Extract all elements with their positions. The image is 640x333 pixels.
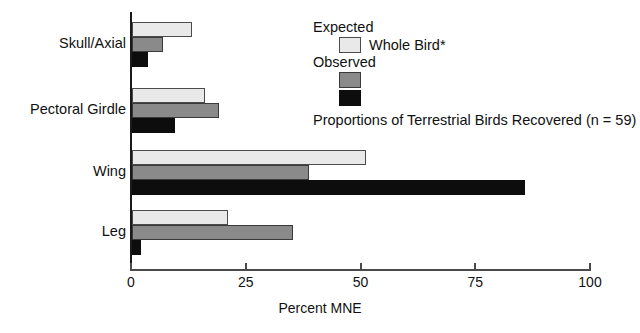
chart-caption: Proportions of Terrestrial Birds Recover… <box>313 112 633 128</box>
bar-leg-observed-gray <box>132 225 293 240</box>
bar-wing-expected <box>132 150 366 165</box>
bar-skull-axial-expected <box>132 22 192 37</box>
legend-swatch-observed-gray-icon <box>339 72 361 88</box>
bar-leg-observed-black <box>132 240 141 255</box>
legend-item-observed-black <box>339 90 633 106</box>
x-tick-0 <box>130 263 132 271</box>
bar-leg-expected <box>132 210 228 225</box>
y-category-label-pectoral-girdle: Pectoral Girdle <box>30 101 126 117</box>
bar-skull-axial-observed-gray <box>132 37 163 52</box>
x-tick-label-25: 25 <box>238 274 254 290</box>
legend-item-observed-gray <box>339 72 633 88</box>
x-tick-label-100: 100 <box>578 274 601 290</box>
legend: Expected Whole Bird* Observed Proportion… <box>313 20 633 128</box>
bar-pectoral-girdle-expected <box>132 88 205 103</box>
bar-chart: 0 25 50 75 100 Percent MNE Skull/Axial P… <box>0 0 640 333</box>
legend-heading-observed: Observed <box>313 55 633 70</box>
x-tick-100 <box>589 263 591 271</box>
bar-pectoral-girdle-observed-black <box>132 118 175 133</box>
legend-swatch-observed-black-icon <box>339 90 361 106</box>
bar-wing-observed-gray <box>132 165 309 180</box>
bar-skull-axial-observed-black <box>132 52 148 67</box>
legend-swatch-expected-icon <box>339 37 361 53</box>
x-tick-75 <box>474 263 476 271</box>
x-tick-label-0: 0 <box>127 274 135 290</box>
bar-pectoral-girdle-observed-gray <box>132 103 219 118</box>
bar-wing-observed-black <box>132 180 525 195</box>
x-tick-50 <box>360 263 362 271</box>
legend-item-whole-bird: Whole Bird* <box>339 37 633 53</box>
legend-label-whole-bird: Whole Bird* <box>369 37 446 53</box>
x-axis-title: Percent MNE <box>0 300 640 316</box>
y-category-label-leg: Leg <box>102 223 126 239</box>
x-tick-label-50: 50 <box>353 274 369 290</box>
legend-heading-expected: Expected <box>313 20 633 35</box>
y-category-label-wing: Wing <box>93 163 126 179</box>
x-tick-25 <box>245 263 247 271</box>
y-category-label-skull-axial: Skull/Axial <box>59 35 126 51</box>
x-tick-label-75: 75 <box>467 274 483 290</box>
